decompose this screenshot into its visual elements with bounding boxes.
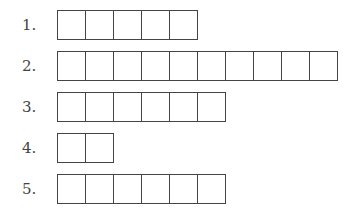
letter-box[interactable] xyxy=(170,11,198,39)
letter-box[interactable] xyxy=(86,52,114,80)
letter-boxes xyxy=(57,92,226,122)
letter-box[interactable] xyxy=(198,175,226,203)
letter-box[interactable] xyxy=(282,52,310,80)
letter-box[interactable] xyxy=(58,52,86,80)
letter-boxes xyxy=(57,174,226,204)
answer-row: 3. xyxy=(0,92,355,122)
row-number: 2. xyxy=(22,57,36,75)
letter-box[interactable] xyxy=(86,93,114,121)
letter-box[interactable] xyxy=(142,93,170,121)
letter-boxes xyxy=(57,10,198,40)
letter-box[interactable] xyxy=(170,175,198,203)
row-number: 5. xyxy=(22,180,36,198)
letter-box[interactable] xyxy=(86,134,114,162)
letter-box[interactable] xyxy=(114,175,142,203)
row-number: 4. xyxy=(22,139,36,157)
letter-box[interactable] xyxy=(58,11,86,39)
letter-box[interactable] xyxy=(58,93,86,121)
letter-box[interactable] xyxy=(142,11,170,39)
letter-box[interactable] xyxy=(198,52,226,80)
letter-boxes xyxy=(57,51,338,81)
letter-box[interactable] xyxy=(114,11,142,39)
letter-box[interactable] xyxy=(114,93,142,121)
letter-box[interactable] xyxy=(198,93,226,121)
letter-box[interactable] xyxy=(86,11,114,39)
answer-row: 2. xyxy=(0,51,355,81)
letter-box[interactable] xyxy=(226,52,254,80)
letter-box[interactable] xyxy=(170,93,198,121)
letter-box[interactable] xyxy=(170,52,198,80)
row-number: 1. xyxy=(22,16,36,34)
answer-row: 5. xyxy=(0,174,355,204)
letter-box[interactable] xyxy=(58,175,86,203)
letter-box[interactable] xyxy=(142,175,170,203)
letter-boxes xyxy=(57,133,114,163)
answer-row: 1. xyxy=(0,10,355,40)
letter-box[interactable] xyxy=(254,52,282,80)
letter-box[interactable] xyxy=(58,134,86,162)
row-number: 3. xyxy=(22,98,36,116)
letter-box[interactable] xyxy=(310,52,338,80)
letter-box[interactable] xyxy=(114,52,142,80)
answer-row: 4. xyxy=(0,133,355,163)
letter-box[interactable] xyxy=(86,175,114,203)
letter-box[interactable] xyxy=(142,52,170,80)
